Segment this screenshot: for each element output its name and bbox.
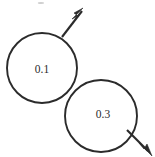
circle-b-label: 0.3 — [96, 108, 111, 120]
circle-a-label: 0.1 — [35, 63, 50, 75]
circle-node-b: 0.3 — [65, 80, 137, 152]
arrow-upper-right-shaft — [62, 11, 82, 37]
scan-speck — [38, 2, 44, 4]
arrow-upper-right — [62, 8, 83, 37]
arrow-lower-right — [127, 130, 152, 156]
arrow-lower-right-head — [139, 143, 152, 156]
diagram-canvas: 0.1 0.3 — [0, 0, 155, 157]
figure-svg: 0.1 0.3 — [0, 0, 155, 157]
circle-node-a: 0.1 — [7, 33, 77, 103]
